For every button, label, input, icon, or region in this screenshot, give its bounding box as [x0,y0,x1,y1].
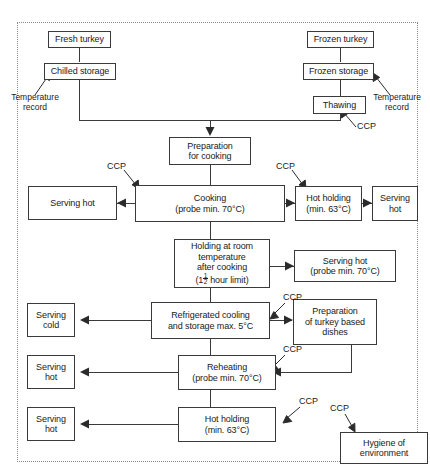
connector-fresh-to-chilled [79,48,80,62]
node-hot-holding-upper-label-line2: (min. 63°C) [306,204,351,215]
node-serving-hot-reheating-label-line1: Serving [36,362,66,373]
node-holding-room-temperature-label-line1: Holding at room [191,241,253,252]
annotation-temp-record-frozen: Temperature record [366,93,428,112]
annotation-ccp-thawing: CCP [357,122,376,132]
node-serving-hot-reheating[interactable]: Serving hot [27,355,75,389]
connector-refrigerated-to-servingcold [84,320,151,321]
connector-preparationdishes-down [351,345,352,372]
node-reheating-label-line2: (probe min. 70°C) [192,373,261,384]
connector-preparationdishes-to-reheating [276,372,352,373]
node-chilled-storage-label: Chilled storage [51,66,110,77]
node-hot-holding-upper[interactable]: Hot holding (min. 63°C) [295,186,362,221]
node-frozen-storage-label: Frozen storage [309,66,368,77]
node-holding-room-temperature[interactable]: Holding at room temperature after cookin… [174,239,270,288]
annotation-ccp-cooking-label: CCP [107,161,126,171]
annotation-ccp-hot-holding-lower: CCP [299,397,318,407]
connector-preparation-to-cooking [210,165,211,185]
node-refrigerated-cooling-label-line2: and storage max. 5°C [168,321,253,332]
connector-holding-to-refrigerated [210,288,211,302]
node-serving-hot-left-cooking-label: Serving hot [50,198,94,209]
node-serving-hot-holding-label-line2: hot [45,424,57,435]
node-fresh-turkey-label: Fresh turkey [55,34,104,45]
node-preparation-for-cooking[interactable]: Preparation for cooking [169,137,251,165]
node-serving-hot-holding[interactable]: Serving hot [27,407,75,441]
connector-reheating-to-hotholding-lower [210,390,211,407]
annotation-ccp-reheating: CCP [283,345,302,355]
annotation-ccp-cooking: CCP [107,162,126,172]
node-serving-cold-label-line2: cold [43,320,59,331]
connector-cooking-to-servinghot-left [117,203,135,204]
node-frozen-storage[interactable]: Frozen storage [303,63,374,80]
annotation-temp-record-frozen-line2: record [385,102,409,112]
node-hygiene-of-environment-label-line1: Hygiene of [363,438,405,449]
node-preparation-turkey-dishes[interactable]: Preparation of turkey based dishes [293,299,377,345]
node-hot-holding-lower-label-line2: (min. 63°C) [205,425,250,436]
node-serving-hot-left-cooking[interactable]: Serving hot [28,186,117,220]
connector-bus-to-preparation [210,120,211,132]
annotation-ccp-hot-holding-lower-label: CCP [299,396,318,406]
annotation-temp-record-frozen-line1: Temperature [373,92,421,102]
node-cooking[interactable]: Cooking (probe min. 70°C) [135,185,285,222]
annotation-ccp-hygiene-label: CCP [330,403,349,413]
node-hot-holding-upper-label-line1: Hot holding [306,193,350,204]
connector-hotholding-to-servinghot-right [362,203,372,204]
holding-limit-suffix: hour limit) [208,275,249,285]
node-thawing[interactable]: Thawing [313,96,366,114]
node-preparation-turkey-dishes-label-line3: dishes [322,327,347,338]
node-serving-hot-right-label-line1: Serving [380,193,410,204]
connector-hotholding-lower-to-servinghot [84,424,178,425]
connector-frozenturkey-to-frozenstorage [340,48,341,62]
node-reheating-label-line1: Reheating [207,362,247,373]
annotation-temp-record-chilled-line2: record [23,102,47,112]
node-serving-hot-probe-label-line2: (probe min. 70°C) [310,266,379,277]
node-serving-hot-reheating-label-line2: hot [45,372,57,383]
connector-refrigerated-to-preparationdishes [270,320,292,321]
node-cooking-label-line2: (probe min. 70°C) [175,204,244,215]
node-fresh-turkey[interactable]: Fresh turkey [48,31,111,48]
node-serving-hot-right-label-line2: hot [389,204,401,215]
connector-reheating-to-servinghot [84,372,178,373]
node-hot-holding-lower[interactable]: Hot holding (min. 63°C) [178,407,276,442]
node-serving-cold-label-line1: Serving [36,310,66,321]
node-thawing-label: Thawing [323,100,356,111]
node-serving-hot-probe-label-line1: Serving hot [323,256,367,267]
connector-cooking-to-hotholding [285,203,295,204]
node-serving-hot-probe[interactable]: Serving hot (probe min. 70°C) [294,250,396,282]
node-hot-holding-lower-label-line1: Hot holding [205,414,249,425]
node-preparation-for-cooking-label-line2: for cooking [189,151,232,162]
node-reheating[interactable]: Reheating (probe min. 70°C) [178,355,276,390]
node-refrigerated-cooling-label-line1: Refrigerated cooling [171,310,250,321]
annotation-ccp-hot-holding-upper-label: CCP [276,161,295,171]
annotation-ccp-refrigerated-cooling: CCP [283,293,302,303]
node-chilled-storage[interactable]: Chilled storage [44,63,116,80]
annotation-ccp-hot-holding-upper: CCP [276,162,295,172]
connector-chilled-down [79,80,80,120]
node-refrigerated-cooling[interactable]: Refrigerated cooling and storage max. 5°… [151,302,270,339]
node-frozen-turkey-label: Frozen turkey [314,34,368,45]
annotation-temp-record-chilled: Temperature record [4,93,66,112]
annotation-ccp-thawing-label: CCP [357,121,376,131]
node-holding-room-temperature-label-line4: (112 hour limit) [195,273,248,286]
connector-holding-to-servinghot-probe [270,266,294,267]
node-preparation-turkey-dishes-label-line1: Preparation [312,306,357,317]
annotation-ccp-hygiene: CCP [330,404,349,414]
node-cooking-label-line1: Cooking [194,193,226,204]
node-preparation-for-cooking-label-line1: Preparation [187,141,232,152]
holding-limit-prefix: (1 [195,275,203,285]
diagram-canvas: Fresh turkey Chilled storage Frozen turk… [0,0,430,474]
node-holding-room-temperature-label-line2: temperature [198,252,245,263]
node-serving-cold[interactable]: Serving cold [27,303,75,337]
annotation-temp-record-chilled-line1: Temperature [11,92,59,102]
node-hygiene-of-environment-label-line2: environment [360,448,408,459]
connector-cooking-to-holding [210,222,211,239]
node-frozen-turkey[interactable]: Frozen turkey [307,31,374,48]
connector-frozenstorage-to-thawing [340,80,341,96]
node-serving-hot-right[interactable]: Serving hot [372,186,418,221]
annotation-ccp-reheating-label: CCP [283,344,302,354]
node-hygiene-of-environment[interactable]: Hygiene of environment [340,432,428,464]
node-preparation-turkey-dishes-label-line2: of turkey based [305,317,365,328]
annotation-ccp-refrigerated-cooling-label: CCP [283,292,302,302]
node-serving-hot-holding-label-line1: Serving [36,414,66,425]
